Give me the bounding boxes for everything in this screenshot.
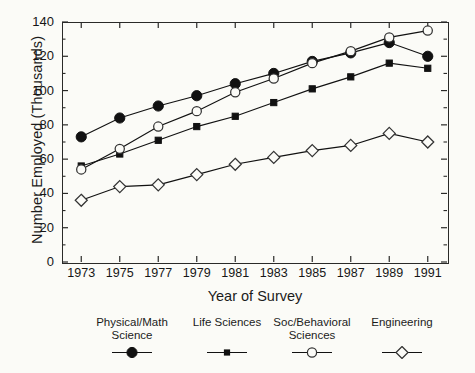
- legend-item: Life Sciences: [184, 316, 270, 359]
- x-axis-tick-label: 1991: [405, 266, 451, 280]
- legend-item: Engineering: [356, 316, 448, 359]
- legend-label-line1: Physical/Math: [84, 316, 180, 329]
- y-axis-tick-label: 20: [2, 220, 54, 235]
- y-axis-tick-label: 100: [2, 83, 54, 98]
- plot-area: [62, 22, 449, 264]
- y-axis-tick-label: 80: [2, 117, 54, 132]
- legend-marker-icon: [356, 346, 448, 359]
- x-axis-title: Year of Survey: [62, 288, 448, 304]
- chart-figure: Number Employed (Thousands) 020406080100…: [0, 0, 475, 373]
- y-axis-tick-label: 60: [2, 151, 54, 166]
- legend-label-line2: Science: [84, 329, 180, 342]
- legend-marker-icon: [264, 346, 360, 359]
- legend-item: Soc/BehavioralSciences: [264, 316, 360, 359]
- y-axis-tick-label: 120: [2, 48, 54, 63]
- legend-marker-icon: [84, 346, 180, 359]
- legend-marker-icon: [184, 346, 270, 359]
- y-axis-tick-label: 40: [2, 185, 54, 200]
- y-axis-tick-label: 0: [2, 254, 54, 269]
- legend-label-line2: Sciences: [264, 329, 360, 342]
- legend-label-line1: Life Sciences: [184, 316, 270, 329]
- chart-legend: Physical/MathScienceLife SciencesSoc/Beh…: [84, 316, 384, 366]
- legend-label-line1: Soc/Behavioral: [264, 316, 360, 329]
- legend-label-line1: Engineering: [356, 316, 448, 329]
- y-axis-tick-label: 140: [2, 14, 54, 29]
- legend-item: Physical/MathScience: [84, 316, 180, 359]
